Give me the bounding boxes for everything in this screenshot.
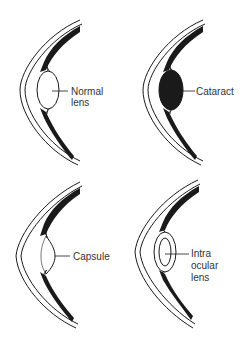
eye-cross-section-iol xyxy=(123,174,246,348)
panel-capsule: Capsule xyxy=(0,174,123,348)
label-intraocular-lens: Intra ocular lens xyxy=(191,248,218,284)
label-line: Cataract xyxy=(196,86,234,97)
label-line: lens xyxy=(191,272,218,284)
panel-normal-lens: Normal lens xyxy=(0,0,123,174)
panel-intraocular-lens: Intra ocular lens xyxy=(123,174,246,348)
label-capsule: Capsule xyxy=(73,251,110,262)
panel-cataract: Cataract xyxy=(123,0,246,174)
label-normal-lens: Normal lens xyxy=(71,86,103,108)
label-line: Intra xyxy=(191,248,218,260)
label-line: lens xyxy=(71,97,103,108)
label-line: ocular xyxy=(191,260,218,272)
eye-cross-section-normal xyxy=(0,0,123,174)
label-line: Capsule xyxy=(73,251,110,262)
label-cataract: Cataract xyxy=(196,86,234,97)
label-line: Normal xyxy=(71,86,103,97)
